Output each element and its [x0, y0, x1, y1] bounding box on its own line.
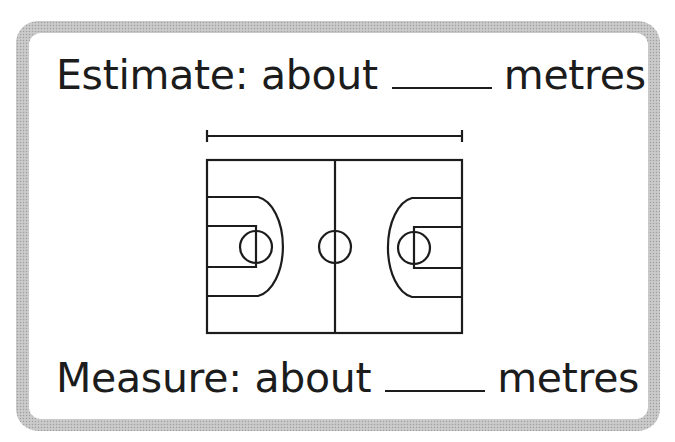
- measure-label: Measure: about: [56, 354, 371, 402]
- measure-unit: metres: [497, 354, 639, 402]
- measure-answer-blank[interactable]: [385, 390, 485, 392]
- measure-line: Measure: aboutmetres: [56, 358, 639, 399]
- length-measure-bar: [207, 130, 462, 142]
